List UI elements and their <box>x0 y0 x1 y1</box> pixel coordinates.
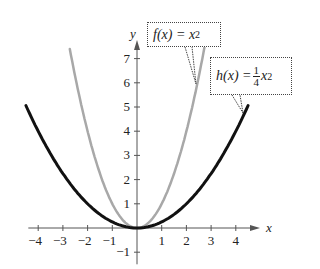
y-tick-label: 6 <box>124 75 131 90</box>
y-tick-label: 1 <box>124 196 131 211</box>
h-label: h(x) = <box>216 68 252 84</box>
x-tick-label: −2 <box>78 233 92 248</box>
x-tick-label: −1 <box>102 233 116 248</box>
y-axis-arrow-icon <box>134 40 140 50</box>
h-fraction: 1 4 <box>253 65 261 88</box>
y-axis-label: y <box>128 26 136 41</box>
x-tick-label: 2 <box>183 233 190 248</box>
y-tick-label: 7 <box>124 51 131 66</box>
x-tick-label: 3 <box>208 233 215 248</box>
f-label: f(x) = x <box>153 27 195 43</box>
curve-f <box>70 41 206 228</box>
h-exponent: 2 <box>267 71 272 82</box>
y-tick-label: 3 <box>124 147 131 162</box>
h-callout-pointer <box>232 95 243 113</box>
h-callout: h(x) = 1 4 x2 <box>210 57 292 95</box>
f-exponent: 2 <box>195 29 200 40</box>
x-tick-label: 1 <box>158 233 165 248</box>
y-tick-label: 5 <box>124 99 131 114</box>
y-tick-label: 2 <box>124 172 131 187</box>
y-tick-label: −1 <box>116 244 130 259</box>
f-callout-pointer <box>185 47 196 84</box>
x-tick-label: −4 <box>28 233 42 248</box>
x-axis-arrow-icon <box>250 225 260 231</box>
x-tick-label: 4 <box>233 233 240 248</box>
f-callout: f(x) = x2 <box>147 22 221 47</box>
x-axis-label: x <box>265 220 272 235</box>
x-tick-label: −3 <box>53 233 67 248</box>
y-tick-label: 4 <box>124 123 131 138</box>
